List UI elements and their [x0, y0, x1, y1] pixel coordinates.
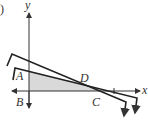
x-axis-label: x [141, 83, 148, 97]
point-b-label: B [16, 95, 24, 109]
part-label: ) [0, 2, 4, 16]
point-d-label: D [79, 71, 89, 85]
y-axis-label: y [24, 0, 31, 12]
point-c-label: C [92, 95, 101, 109]
linear-programming-diagram: ) y x A B C D [0, 0, 148, 122]
point-a-label: A [15, 69, 24, 83]
